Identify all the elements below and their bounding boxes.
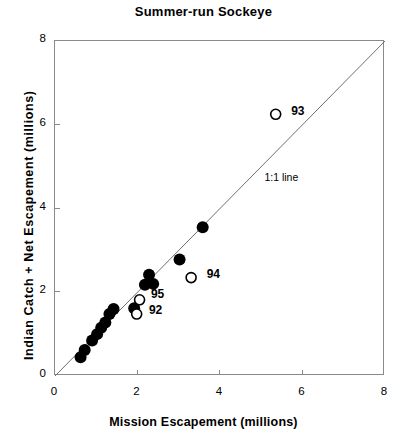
- x-tick-mark-6: [302, 370, 303, 375]
- scatter-chart: Summer-run Sockeye Indian Catch + Net Es…: [0, 0, 407, 444]
- point-label-95: 95: [151, 287, 164, 301]
- data-point-open-92: [132, 309, 142, 319]
- y-tick-label-4: 4: [18, 200, 46, 212]
- y-tick-label-0: 0: [18, 367, 46, 379]
- y-tick-mark-4: [55, 208, 60, 209]
- point-label-94: 94: [207, 267, 220, 281]
- plot-area: [54, 40, 384, 375]
- reference-line-label: 1:1 line: [264, 171, 298, 183]
- x-tick-label-0: 0: [42, 385, 66, 397]
- data-point-filled: [174, 254, 186, 266]
- y-tick-label-2: 2: [18, 283, 46, 295]
- y-tick-mark-2: [55, 291, 60, 292]
- x-tick-label-6: 6: [290, 385, 314, 397]
- y-axis-title: Indian Catch + Net Escapement (millions): [22, 90, 36, 360]
- data-point-open-94: [186, 273, 196, 283]
- x-tick-label-8: 8: [372, 385, 396, 397]
- data-point-open-95: [135, 295, 145, 305]
- point-label-93: 93: [291, 104, 304, 118]
- y-tick-label-8: 8: [18, 32, 46, 44]
- y-tick-label-6: 6: [18, 116, 46, 128]
- x-tick-mark-2: [137, 370, 138, 375]
- point-label-92: 92: [149, 303, 162, 317]
- x-tick-label-2: 2: [125, 385, 149, 397]
- data-point-open-93: [271, 109, 281, 119]
- x-tick-mark-4: [219, 370, 220, 375]
- chart-title: Summer-run Sockeye: [0, 4, 407, 19]
- x-tick-label-4: 4: [207, 385, 231, 397]
- y-tick-mark-6: [55, 124, 60, 125]
- data-point-filled: [79, 344, 91, 356]
- data-point-filled: [108, 303, 120, 315]
- x-axis-title: Mission Escapement (millions): [0, 415, 407, 429]
- plot-canvas: [55, 41, 385, 376]
- data-point-filled: [197, 221, 209, 233]
